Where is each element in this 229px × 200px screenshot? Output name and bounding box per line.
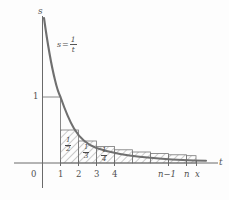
fraction-numerator: 1 (101, 147, 107, 154)
equation-denominator: t (70, 46, 77, 54)
fraction-denominator: 4 (101, 156, 107, 163)
rectangle-label-one-half: 1 2 (65, 137, 71, 153)
fraction-one-third: 1 3 (83, 144, 89, 160)
y-axis-label: s (38, 7, 43, 16)
fraction-numerator: 1 (65, 137, 71, 144)
fraction-one-quarter: 1 4 (101, 147, 107, 163)
riemann-rectangles (61, 130, 197, 163)
x-tick-label-x: x (195, 170, 200, 179)
rectangle-label-one-third: 1 3 (83, 144, 89, 160)
origin-label: 0 (31, 170, 36, 179)
equation-relation: = (61, 40, 70, 49)
x-tick-label-1: 1 (58, 170, 63, 179)
fraction-denominator: 2 (65, 146, 71, 153)
fraction-one-half: 1 2 (65, 137, 71, 153)
x-axis-label: t (219, 158, 223, 167)
equation-fraction: 1 t (70, 36, 77, 53)
fraction-numerator: 1 (83, 144, 89, 151)
x-tick-label-3: 3 (94, 170, 99, 179)
equation-numerator: 1 (70, 36, 77, 44)
y-tick-label-1: 1 (33, 92, 38, 101)
x-tick-label-4: 4 (112, 170, 117, 179)
rectangle-label-one-quarter: 1 4 (101, 147, 107, 163)
fraction-denominator: 3 (83, 153, 89, 160)
riemann-sum-figure: s t 0 1 s= 1 t 1 2 3 4 n−1 n x 1 2 1 3 (0, 0, 229, 200)
x-tick-label-2: 2 (76, 170, 81, 179)
curve-equation: s= 1 t (57, 36, 77, 53)
x-tick-label-n-minus-1: n−1 (158, 170, 176, 179)
x-tick-label-n: n (184, 170, 189, 179)
